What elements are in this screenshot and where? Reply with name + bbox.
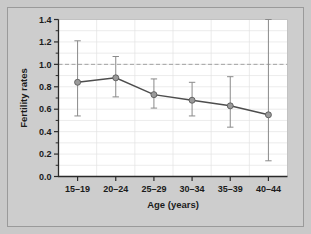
x-tick-label: 25–29 <box>141 184 166 194</box>
y-tick-label: 1.2 <box>39 37 52 47</box>
data-point-marker <box>151 92 157 98</box>
y-tick-label: 1.0 <box>39 60 52 70</box>
x-axis-title: Age (years) <box>147 199 199 210</box>
y-tick-label: 1.4 <box>39 15 52 25</box>
x-tick-label: 40–44 <box>256 184 281 194</box>
data-point-marker <box>265 112 271 118</box>
data-point-marker <box>75 79 81 85</box>
y-axis-title: Fertility rates <box>18 68 29 128</box>
y-tick-label: 0.2 <box>39 149 52 159</box>
figure-frame: 0.00.20.40.60.81.01.21.415–1920–2425–293… <box>0 0 311 234</box>
y-tick-label: 0.8 <box>39 82 52 92</box>
y-tick-label: 0.6 <box>39 104 52 114</box>
y-tick-label: 0.4 <box>39 127 52 137</box>
data-point-marker <box>227 103 233 109</box>
y-tick-label: 0.0 <box>39 172 52 182</box>
x-tick-label: 35–39 <box>218 184 243 194</box>
x-tick-label: 30–34 <box>180 184 205 194</box>
x-tick-label: 20–24 <box>103 184 128 194</box>
data-point-marker <box>113 75 119 81</box>
data-point-marker <box>189 97 195 103</box>
fertility-rates-chart: 0.00.20.40.60.81.01.21.415–1920–2425–293… <box>0 0 311 234</box>
x-tick-label: 15–19 <box>65 184 90 194</box>
